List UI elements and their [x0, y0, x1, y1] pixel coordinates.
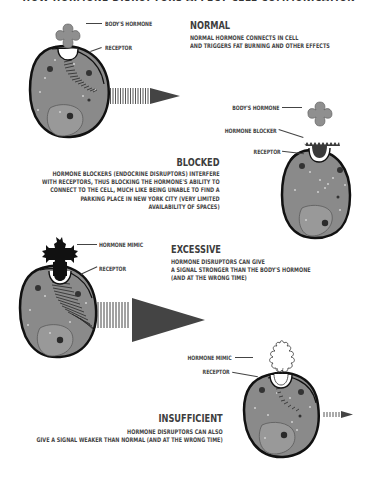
- label-hormone-mimic: HORMONE MIMIC: [188, 354, 232, 361]
- insufficient-cell-illustration: [0, 0, 378, 477]
- signal-arrow-weak: [324, 412, 339, 417]
- panel-title-insufficient: INSUFFICIENT: [159, 412, 223, 425]
- description-line: GIVE A SIGNAL WEAKER THAN NORMAL (AND AT…: [37, 436, 223, 444]
- label-receptor: RECEPTOR: [203, 368, 230, 375]
- description-line: HORMONE DISRUPTORS CAN ALSO: [37, 428, 223, 436]
- panel-description-insufficient: HORMONE DISRUPTORS CAN ALSO GIVE A SIGNA…: [37, 428, 223, 444]
